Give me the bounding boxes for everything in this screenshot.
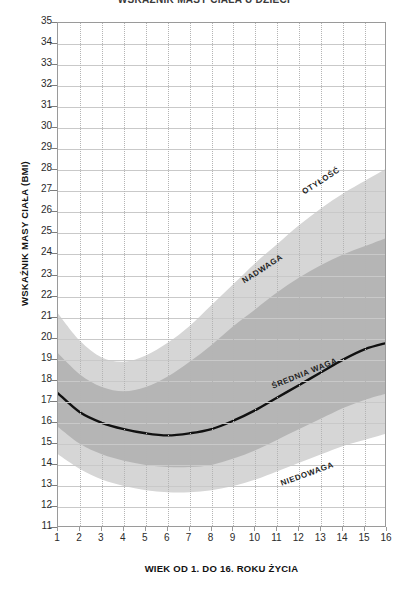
horizontal-gridline <box>58 107 385 108</box>
y-axis-tick-mark <box>50 401 57 402</box>
x-axis-tick-mark <box>101 527 102 531</box>
horizontal-gridline <box>58 444 385 445</box>
y-axis-tick-label: 20 <box>26 331 52 342</box>
vertical-gridline <box>190 23 191 526</box>
horizontal-gridline <box>58 381 385 382</box>
x-axis-tick-mark <box>298 527 299 531</box>
y-axis-tick-mark <box>50 106 57 107</box>
vertical-gridline <box>299 23 300 526</box>
horizontal-gridline <box>58 86 385 87</box>
horizontal-gridline <box>58 486 385 487</box>
y-axis-tick-mark <box>50 380 57 381</box>
y-axis-tick-label: 14 <box>26 457 52 468</box>
y-axis-tick-label: 13 <box>26 478 52 489</box>
y-axis-tick-mark <box>50 232 57 233</box>
vertical-gridline <box>212 23 213 526</box>
x-axis-tick-label: 11 <box>264 532 288 543</box>
horizontal-gridline <box>58 44 385 45</box>
y-axis-tick-mark <box>50 338 57 339</box>
y-axis-tick-label: 32 <box>26 78 52 89</box>
x-axis-tick-mark <box>276 527 277 531</box>
x-axis-tick-mark <box>386 527 387 531</box>
horizontal-gridline <box>58 276 385 277</box>
horizontal-gridline <box>58 423 385 424</box>
x-axis-tick-label: 3 <box>89 532 113 543</box>
y-axis-tick-mark <box>50 148 57 149</box>
x-axis-tick-label: 16 <box>374 532 398 543</box>
vertical-gridline <box>146 23 147 526</box>
y-axis-tick-mark <box>50 485 57 486</box>
vertical-gridline <box>80 23 81 526</box>
x-axis-tick-mark <box>145 527 146 531</box>
y-axis-tick-label: 34 <box>26 36 52 47</box>
x-axis-tick-label: 15 <box>352 532 376 543</box>
x-axis-tick-label: 14 <box>330 532 354 543</box>
vertical-gridline <box>124 23 125 526</box>
y-axis-tick-label: 25 <box>26 225 52 236</box>
x-axis-tick-mark <box>123 527 124 531</box>
chart-title: WSKAŹNIK MASY CIAŁA U DZIECI <box>0 0 408 6</box>
horizontal-gridline <box>58 318 385 319</box>
y-axis-tick-mark <box>50 64 57 65</box>
bmi-chart-svg <box>58 23 386 527</box>
x-axis-tick-label: 8 <box>199 532 223 543</box>
y-axis-tick-label: 33 <box>26 57 52 68</box>
x-axis-tick-mark <box>211 527 212 531</box>
y-axis-tick-mark <box>50 422 57 423</box>
y-axis-tick-label: 15 <box>26 436 52 447</box>
vertical-gridline <box>277 23 278 526</box>
x-axis-tick-label: 10 <box>242 532 266 543</box>
y-axis-tick-label: 23 <box>26 268 52 279</box>
vertical-gridline <box>343 23 344 526</box>
y-axis-tick-label: 22 <box>26 289 52 300</box>
y-axis-tick-mark <box>50 190 57 191</box>
vertical-gridline <box>233 23 234 526</box>
y-axis-tick-mark <box>50 85 57 86</box>
y-axis-tick-mark <box>50 317 57 318</box>
horizontal-gridline <box>58 297 385 298</box>
x-axis-tick-mark <box>57 527 58 531</box>
x-axis-tick-label: 1 <box>45 532 69 543</box>
y-axis-tick-label: 11 <box>26 520 52 531</box>
y-axis-tick-label: 24 <box>26 246 52 257</box>
y-axis-tick-label: 35 <box>26 15 52 26</box>
y-axis-tick-mark <box>50 211 57 212</box>
x-axis-tick-label: 9 <box>220 532 244 543</box>
x-axis-tick-mark <box>79 527 80 531</box>
vertical-gridline <box>168 23 169 526</box>
horizontal-gridline <box>58 339 385 340</box>
y-axis-tick-mark <box>50 43 57 44</box>
x-axis-tick-mark <box>232 527 233 531</box>
x-axis-tick-label: 13 <box>308 532 332 543</box>
x-axis-tick-mark <box>342 527 343 531</box>
x-axis-tick-label: 12 <box>286 532 310 543</box>
horizontal-gridline <box>58 149 385 150</box>
x-axis-tick-label: 2 <box>67 532 91 543</box>
x-axis-tick-mark <box>320 527 321 531</box>
horizontal-gridline <box>58 65 385 66</box>
vertical-gridline <box>321 23 322 526</box>
y-axis-tick-label: 21 <box>26 310 52 321</box>
y-axis-tick-label: 17 <box>26 394 52 405</box>
y-axis-tick-mark <box>50 527 57 528</box>
y-axis-tick-label: 29 <box>26 141 52 152</box>
x-axis-tick-label: 5 <box>133 532 157 543</box>
x-axis-tick-label: 6 <box>155 532 179 543</box>
vertical-gridline <box>102 23 103 526</box>
y-axis-tick-label: 18 <box>26 373 52 384</box>
y-axis-tick-mark <box>50 464 57 465</box>
x-axis-tick-mark <box>364 527 365 531</box>
y-axis-tick-mark <box>50 443 57 444</box>
y-axis-tick-label: 16 <box>26 415 52 426</box>
horizontal-gridline <box>58 212 385 213</box>
y-axis-tick-label: 12 <box>26 499 52 510</box>
horizontal-gridline <box>58 402 385 403</box>
horizontal-gridline <box>58 233 385 234</box>
y-axis-tick-label: 19 <box>26 352 52 363</box>
chart-plot-area <box>57 22 386 527</box>
x-axis-tick-label: 4 <box>111 532 135 543</box>
x-axis-tick-mark <box>254 527 255 531</box>
y-axis-tick-mark <box>50 275 57 276</box>
horizontal-gridline <box>58 128 385 129</box>
x-axis-tick-mark <box>189 527 190 531</box>
